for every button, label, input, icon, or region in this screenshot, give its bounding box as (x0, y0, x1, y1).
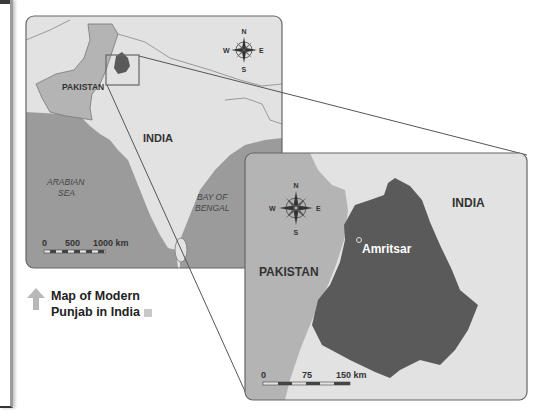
svg-text:0: 0 (42, 238, 47, 248)
svg-text:W: W (223, 47, 230, 54)
main-map: PAKISTAN INDIA ARABIAN SEA BAY OF BENGAL… (26, 16, 282, 268)
inset-label-pakistan: PAKISTAN (259, 265, 319, 279)
svg-text:500: 500 (65, 238, 80, 248)
label-arabian-sea-2: SEA (58, 188, 75, 198)
svg-text:0: 0 (261, 370, 266, 380)
label-india: INDIA (143, 132, 173, 144)
caption-line-2: Punjab in India (51, 305, 140, 319)
label-pakistan: PAKISTAN (62, 82, 104, 92)
inset-label-india: INDIA (452, 196, 485, 210)
inset-label-amritsar: Amritsar (362, 242, 412, 256)
inset-map: INDIA PAKISTAN Amritsar N S W E 0 75 150… (245, 153, 527, 400)
up-arrow-icon (27, 288, 45, 310)
label-arabian-sea-1: ARABIAN (46, 177, 85, 187)
svg-text:N: N (294, 182, 299, 189)
svg-text:150 km: 150 km (336, 370, 367, 380)
svg-text:S: S (242, 66, 247, 73)
svg-text:E: E (259, 47, 264, 54)
svg-text:W: W (269, 205, 276, 212)
end-square-icon (144, 309, 152, 317)
svg-text:E: E (316, 205, 321, 212)
svg-text:N: N (242, 28, 247, 35)
svg-text:75: 75 (302, 370, 312, 380)
svg-text:1000 km: 1000 km (93, 238, 129, 248)
label-bay-1: BAY OF (197, 192, 228, 202)
label-bay-2: BENGAL (195, 203, 230, 213)
caption-line-1: Map of Modern (51, 288, 152, 304)
svg-text:S: S (294, 229, 299, 236)
map-figure: PAKISTAN INDIA ARABIAN SEA BAY OF BENGAL… (0, 0, 545, 418)
map-caption: Map of Modern Punjab in India (27, 288, 152, 320)
